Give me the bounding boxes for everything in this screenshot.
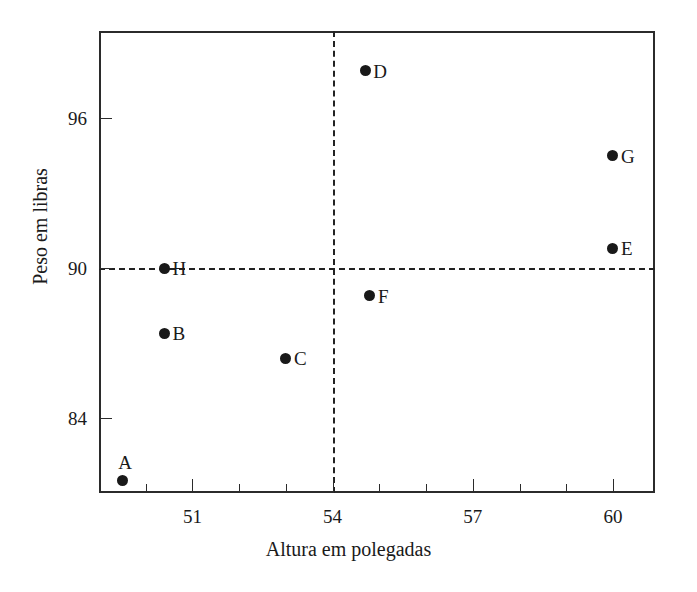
data-point-label-c: C xyxy=(294,349,307,368)
y-axis-tick-label: 96 xyxy=(27,109,87,128)
x-axis-tick-minor xyxy=(286,484,287,493)
data-point-label-h: H xyxy=(172,259,186,278)
data-point-label-b: B xyxy=(172,324,185,343)
data-point-label-g: G xyxy=(621,147,635,166)
x-axis-tick-major xyxy=(613,479,614,493)
x-axis-tick-minor xyxy=(239,484,240,493)
x-axis-tick-label: 60 xyxy=(583,507,643,526)
x-axis-tick-major xyxy=(333,479,334,493)
x-axis-tick-minor xyxy=(426,484,427,493)
x-axis-tick-minor xyxy=(520,484,521,493)
x-axis-title: Altura em polegadas xyxy=(0,538,697,561)
y-axis-tick-major xyxy=(99,118,112,119)
data-point-a[interactable] xyxy=(117,475,128,486)
y-axis-tick-label: 90 xyxy=(27,259,87,278)
data-point-label-d: D xyxy=(373,62,387,81)
data-point-b[interactable] xyxy=(159,328,170,339)
scatter-plot-figure: ABCDEFGH Altura em polegadas Peso em lib… xyxy=(0,0,697,592)
data-point-c[interactable] xyxy=(280,353,291,364)
x-axis-tick-major xyxy=(192,479,193,493)
x-axis-tick-minor xyxy=(146,484,147,493)
data-point-label-a: A xyxy=(118,453,132,472)
data-point-label-f: F xyxy=(378,287,389,306)
x-axis-tick-label: 54 xyxy=(303,507,363,526)
data-point-label-e: E xyxy=(621,239,633,258)
y-axis-title: Peso em libras xyxy=(29,107,52,347)
x-axis-tick-major xyxy=(473,479,474,493)
data-point-h[interactable] xyxy=(159,263,170,274)
x-axis-tick-label: 51 xyxy=(162,507,222,526)
y-axis-tick-label: 84 xyxy=(27,409,87,428)
x-axis-tick-minor xyxy=(566,484,567,493)
mean-height-line xyxy=(333,31,335,493)
x-axis-tick-label: 57 xyxy=(443,507,503,526)
x-axis-tick-minor xyxy=(379,484,380,493)
y-axis-tick-major xyxy=(99,418,112,419)
y-axis-tick-major xyxy=(99,268,112,269)
